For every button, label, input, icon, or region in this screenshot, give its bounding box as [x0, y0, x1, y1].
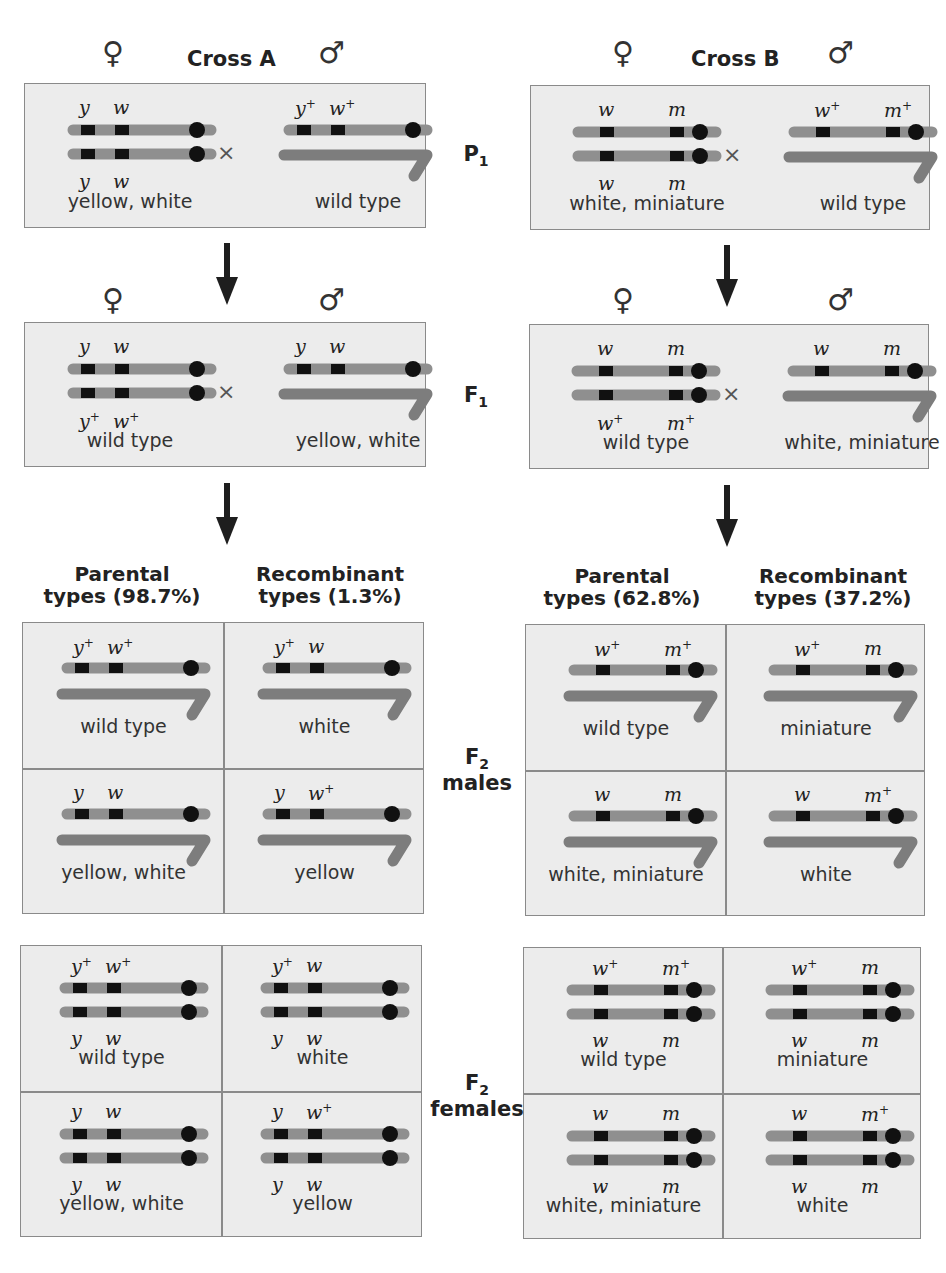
gene-locus-1 [276, 663, 290, 673]
f2-females-cell: wm+wmwhite [723, 1094, 922, 1240]
gene-locus-1 [594, 985, 608, 995]
x-chromosome-icon [760, 1125, 920, 1147]
gene-locus-1 [73, 1153, 87, 1163]
crossA-f2-females-grid: y+w+ywwild typey+wywwhiteywywyellow, whi… [20, 945, 422, 1237]
gene-locus-1 [81, 364, 95, 374]
wild-type-superscript: + [90, 410, 100, 424]
allele-symbol: w [107, 781, 123, 803]
wild-type-superscript: + [682, 638, 692, 652]
centromere [686, 982, 702, 998]
x-chromosome-icon [62, 143, 222, 165]
gene-locus-2 [866, 811, 880, 821]
allele-symbol: y [274, 781, 285, 803]
arrow-head [716, 519, 738, 547]
header-line-2: types (98.7%) [43, 584, 200, 608]
allele-label: w+ [794, 639, 820, 659]
centromere [885, 1128, 901, 1144]
gene-locus-2 [331, 364, 345, 374]
x-chromosome-icon [56, 657, 216, 679]
allele-label: m [668, 174, 686, 193]
allele-label: w [113, 172, 129, 191]
f2-parental-header: Parentaltypes (62.8%) [522, 565, 722, 610]
gene-locus-1 [81, 388, 95, 398]
f2-parental-header: Parentaltypes (98.7%) [22, 563, 222, 608]
gene-locus-2 [669, 390, 683, 400]
wild-type-superscript: + [830, 99, 840, 113]
allele-label: y+ [295, 98, 316, 118]
f2-males-cell: yw+yellow [224, 769, 425, 915]
generation-label-f1: F1 [441, 384, 511, 410]
wild-type-superscript: + [685, 412, 695, 426]
wild-type-superscript: + [82, 955, 92, 969]
allele-symbol: y [272, 955, 283, 977]
phenotype-label: white [731, 863, 921, 885]
x-chromosome-icon [760, 1149, 920, 1171]
allele-symbol: y [272, 1100, 283, 1122]
centromere [181, 1150, 197, 1166]
allele-symbol: m [864, 784, 882, 806]
phenotype-label: yellow, white [248, 429, 468, 451]
x-chromosome-icon [561, 1125, 721, 1147]
wild-type-superscript: + [879, 1103, 889, 1117]
x-chromosome-icon [782, 360, 942, 382]
phenotype-label: white [227, 1046, 418, 1068]
centromere [405, 122, 421, 138]
allele-symbol: w [308, 635, 324, 657]
wild-type-superscript: + [902, 99, 912, 113]
allele-label: m [668, 100, 686, 119]
centromere [382, 1004, 398, 1020]
generation-letter: F [465, 1071, 479, 1095]
gene-locus-1 [599, 366, 613, 376]
centromere [686, 1128, 702, 1144]
allele-symbol: w [592, 1102, 608, 1124]
wild-type-superscript: + [613, 412, 623, 426]
phenotype-label: yellow [227, 1192, 418, 1214]
gene-locus-1 [793, 1009, 807, 1019]
allele-label: m [667, 339, 685, 358]
gene-locus-2 [664, 1131, 678, 1141]
allele-symbol: w [113, 170, 129, 192]
allele-symbol: y [73, 781, 84, 803]
centromere [691, 363, 707, 379]
allele-label: w [107, 783, 123, 802]
allele-label: w [597, 339, 613, 358]
cross-symbol-icon: × [722, 381, 740, 406]
phenotype-label: wild type [26, 1046, 217, 1068]
cross-symbol-icon: × [723, 142, 741, 167]
x-chromosome-icon [563, 805, 723, 827]
header-line-1: Parental [574, 564, 669, 588]
gene-locus-2 [664, 1009, 678, 1019]
crossB-f2-males-grid: w+m+wild typew+mminiaturewmwhite, miniat… [525, 624, 925, 916]
x-chromosome-icon [54, 977, 214, 999]
allele-label: m [883, 339, 901, 358]
cross-symbol-icon: × [217, 379, 235, 404]
x-chromosome-icon [255, 1123, 415, 1145]
f2-females-cell: y+wywwhite [222, 946, 423, 1092]
phenotype-label: miniature [731, 717, 921, 739]
crossB-f1-panel: wmw+m+wild type×wmwhite, miniature [529, 324, 929, 469]
centromere [181, 980, 197, 996]
allele-label: w+ [814, 100, 840, 120]
allele-label: y+ [272, 956, 293, 976]
allele-label: w+ [329, 98, 355, 118]
gene-locus-1 [81, 149, 95, 159]
cross-b-title: Cross B [691, 47, 780, 71]
allele-symbol: m [668, 172, 686, 194]
gene-locus-2 [115, 149, 129, 159]
phenotype-label: wild type [529, 1048, 718, 1070]
arrow-head [716, 279, 738, 307]
arrow-shaft [224, 483, 230, 519]
allele-label: y [272, 1102, 283, 1121]
allele-symbol: m [662, 957, 680, 979]
arrow-head [216, 517, 238, 545]
wild-type-superscript: + [610, 638, 620, 652]
wild-type-superscript: + [324, 782, 334, 796]
gene-locus-2 [863, 1155, 877, 1165]
centromere [382, 1150, 398, 1166]
female-symbol-icon: ♀ [612, 38, 634, 68]
gene-locus-2 [109, 809, 123, 819]
wild-type-superscript: + [283, 955, 293, 969]
allele-label: w+ [791, 958, 817, 978]
y-chromosome-icon [782, 148, 944, 188]
gene-locus-1 [600, 127, 614, 137]
